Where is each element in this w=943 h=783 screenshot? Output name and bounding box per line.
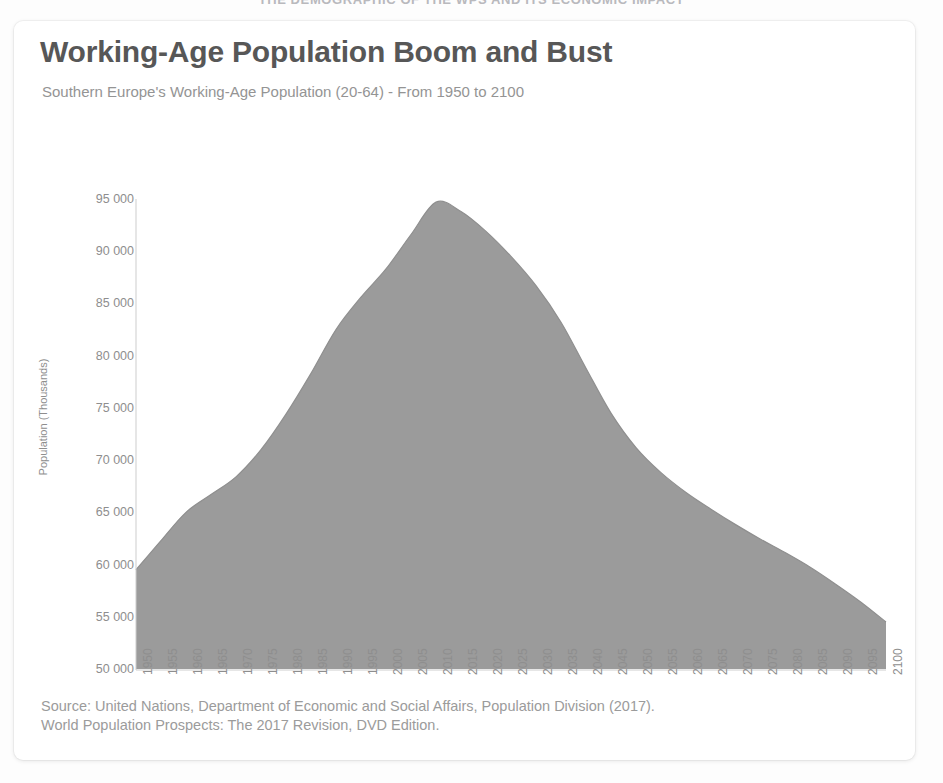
x-tick-label: 2085 xyxy=(816,648,830,675)
x-tick-label: 2020 xyxy=(491,648,505,675)
x-tick-label: 1995 xyxy=(366,648,380,675)
x-tick-label: 2050 xyxy=(641,648,655,675)
x-tick-label: 2010 xyxy=(441,648,455,675)
x-tick-label: 2035 xyxy=(566,648,580,675)
x-tick-label: 2000 xyxy=(391,648,405,675)
x-tick-label: 2060 xyxy=(691,648,705,675)
x-tick-label: 2095 xyxy=(866,648,880,675)
x-tick-label: 2065 xyxy=(716,648,730,675)
x-tick-label: 1985 xyxy=(316,648,330,675)
x-tick-label: 1980 xyxy=(291,648,305,675)
x-tick-label: 1990 xyxy=(341,648,355,675)
banner-label: THE DEMOGRAPHIC OF THE WPS AND ITS ECONO… xyxy=(259,0,685,5)
page-banner-text: THE DEMOGRAPHIC OF THE WPS AND ITS ECONO… xyxy=(0,0,943,13)
x-tick-label: 2030 xyxy=(541,648,555,675)
x-tick-label: 2025 xyxy=(516,648,530,675)
x-tick-label: 2090 xyxy=(841,648,855,675)
x-tick-label: 1955 xyxy=(166,648,180,675)
plot-area: Population (Thousands) 50 00055 00060 00… xyxy=(14,21,915,760)
x-tick-label: 1960 xyxy=(191,648,205,675)
x-tick-label: 2040 xyxy=(591,648,605,675)
x-tick-label: 2080 xyxy=(791,648,805,675)
source-note: Source: United Nations, Department of Ec… xyxy=(41,697,655,735)
chart-card: Working-Age Population Boom and Bust Sou… xyxy=(14,21,915,760)
x-tick-label: 1975 xyxy=(266,648,280,675)
source-line-1: Source: United Nations, Department of Ec… xyxy=(41,697,655,716)
x-tick-label: 2045 xyxy=(616,648,630,675)
x-tick-label: 2015 xyxy=(466,648,480,675)
x-tick-label: 2055 xyxy=(666,648,680,675)
x-tick-label: 2075 xyxy=(766,648,780,675)
x-tick-label: 1950 xyxy=(141,648,155,675)
source-line-2: World Population Prospects: The 2017 Rev… xyxy=(41,716,655,735)
x-tick-label: 1965 xyxy=(216,648,230,675)
x-axis-ticks: 1950195519601965197019751980198519901995… xyxy=(14,21,915,760)
x-tick-label: 2005 xyxy=(416,648,430,675)
x-tick-label: 2070 xyxy=(741,648,755,675)
x-tick-label: 2100 xyxy=(891,648,905,675)
x-tick-label: 1970 xyxy=(241,648,255,675)
